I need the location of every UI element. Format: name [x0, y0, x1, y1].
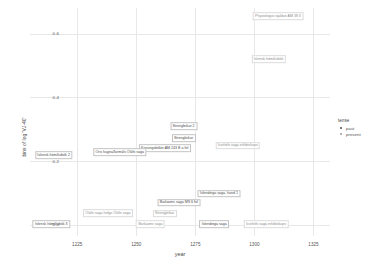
gridline-vertical: [254, 8, 255, 236]
gridline-horizontal: [30, 34, 330, 35]
y-axis-tick-label: 0.0: [53, 222, 59, 227]
gridline-horizontal: [30, 97, 330, 98]
legend-marker-icon: [338, 126, 343, 131]
legend-item-label: present: [346, 132, 361, 137]
point-label[interactable]: Óláfs saga helga Óláfs saga: [83, 210, 133, 218]
legend-title: tense: [338, 118, 390, 123]
x-axis-tick-label: 1300: [249, 242, 259, 247]
legend-item[interactable]: past: [338, 126, 390, 131]
point-label[interactable]: Physiologus sjaldan AM 38 II: [253, 12, 304, 20]
point-label[interactable]: Barlaams saga: [136, 220, 165, 228]
x-axis-tick-label: 1325: [308, 242, 318, 247]
y-axis-tick-label: 0.4: [53, 95, 59, 100]
x-axis-tick-label: 1225: [72, 242, 82, 247]
point-label[interactable]: Þorleifs saga erkibiskups: [216, 142, 261, 150]
chart-root: Physiologus sjaldan AM 38 IIÍslensk hómi…: [0, 0, 391, 274]
point-label[interactable]: Íslensk hómilíubók 3: [33, 220, 70, 228]
gridline-vertical: [313, 8, 314, 236]
point-label[interactable]: Konungsbókin AM 243 B a fol: [139, 144, 191, 152]
gridline-horizontal: [30, 161, 330, 162]
point-label[interactable]: Þorleifs saga erkibiskups: [244, 220, 289, 228]
x-axis-tick-label: 1275: [190, 242, 200, 247]
y-axis-tick-label: 0.2: [53, 159, 59, 164]
y-axis-label: bins of log 'VJ-40': [21, 117, 27, 156]
point-label[interactable]: Strengleikar 2: [170, 122, 197, 130]
point-label[interactable]: Íslendinga saga: [199, 220, 229, 228]
x-axis-tick-label: 1250: [131, 242, 141, 247]
point-label[interactable]: Íslensk hómilíubók: [251, 55, 285, 63]
y-axis-tick-label: 0.6: [53, 31, 59, 36]
legend-item[interactable]: present: [338, 132, 390, 137]
point-label[interactable]: Oris hagnaðarmáls Óláfs saga: [93, 148, 146, 156]
legend: tense pastpresent: [338, 118, 390, 138]
gridline-vertical: [136, 8, 137, 236]
point-label[interactable]: Barlaams saga MS 6 fol: [157, 199, 200, 207]
point-label[interactable]: Strengleikar: [153, 210, 177, 218]
legend-item-label: past: [346, 126, 354, 131]
gridline-vertical: [77, 8, 78, 236]
legend-marker-icon: [338, 132, 343, 137]
plot-panel: Physiologus sjaldan AM 38 IIÍslensk hómi…: [30, 8, 330, 236]
point-label[interactable]: Íslendinga saga, hand 1: [197, 190, 240, 198]
x-axis-label: year: [175, 251, 186, 257]
point-label[interactable]: Strengleikar: [172, 134, 196, 142]
